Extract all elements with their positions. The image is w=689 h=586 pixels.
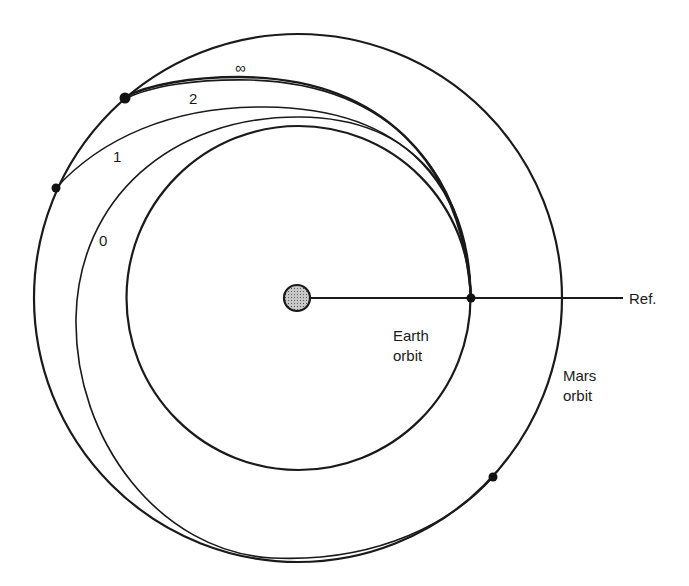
earth-orbit-label-line2: orbit [393, 347, 423, 364]
trajectory-infinity [125, 77, 471, 298]
arrival-point-0 [489, 473, 498, 482]
sun-icon [284, 285, 310, 311]
trajectory-1 [56, 107, 471, 298]
trajectory-label-2: 2 [189, 90, 197, 107]
trajectory-label-infinity: ∞ [235, 59, 246, 76]
trajectory-label-0: 0 [99, 232, 107, 249]
mars-orbit-label-line1: Mars [563, 367, 596, 384]
trajectory-2 [125, 80, 471, 298]
earth-mars-transfer-diagram: ∞ 2 1 0 Earth orbit Mars orbit Ref. [0, 0, 689, 586]
trajectory-0 [76, 117, 493, 558]
trajectory-label-1: 1 [113, 148, 121, 165]
arrival-point-1 [52, 184, 61, 193]
arrival-point-2-infinity [120, 93, 131, 104]
earth-orbit-label-line1: Earth [393, 327, 429, 344]
departure-point-earth [467, 294, 476, 303]
reference-label: Ref. [629, 290, 657, 307]
mars-orbit-label-line2: orbit [563, 387, 593, 404]
